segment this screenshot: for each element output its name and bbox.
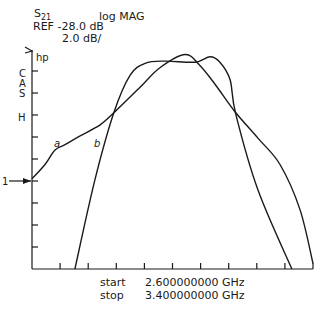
series-labels: ab [54, 138, 100, 149]
stop-value: 3.400000000 GHz [145, 289, 245, 302]
start-value: 2.600000000 GHz [145, 276, 245, 289]
y-axis-arrow [25, 47, 32, 53]
ticks [32, 71, 313, 269]
start-label: start [100, 276, 145, 289]
series-label-a: a [54, 138, 60, 149]
cas-label-s: S [19, 88, 25, 99]
axes [25, 47, 313, 269]
traces [32, 54, 313, 269]
reference-marker-label: 1 [2, 176, 8, 187]
h-label: H [18, 112, 26, 123]
frequency-range: start2.600000000 GHz stop3.400000000 GHz [100, 276, 245, 302]
plot-area: hpCASH1 ab [0, 0, 328, 310]
series-label-b: b [94, 138, 100, 149]
reference-marker-arrow [23, 178, 31, 184]
stop-label: stop [100, 289, 145, 302]
trace-b [75, 57, 292, 269]
hp-label: hp [36, 52, 49, 63]
trace-a [32, 54, 313, 263]
y-annotations: hpCASH1 [2, 52, 49, 187]
